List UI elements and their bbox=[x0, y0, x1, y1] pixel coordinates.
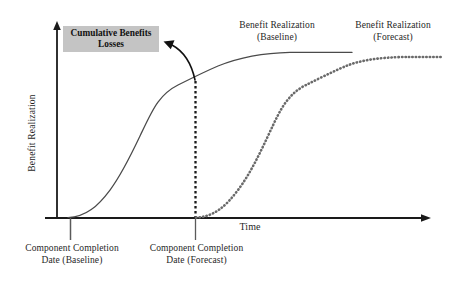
y-axis-label: Benefit Realization bbox=[27, 73, 37, 193]
series-label-baseline: Benefit Realization (Baseline) bbox=[216, 20, 338, 43]
marker-label-completion-forecast: Component Completion Date (Forecast) bbox=[126, 243, 267, 266]
callout-arrow bbox=[164, 40, 196, 80]
marker-label-completion-baseline: Component Completion Date (Baseline) bbox=[2, 243, 142, 266]
callout-label: Cumulative Benefits Losses bbox=[71, 28, 152, 50]
curve-baseline bbox=[68, 52, 352, 217]
callout-cumulative-benefits-losses: Cumulative Benefits Losses bbox=[63, 26, 159, 52]
series-label-forecast: Benefit Realization (Forecast) bbox=[331, 20, 455, 43]
curve-forecast bbox=[196, 57, 443, 218]
x-axis-label: Time bbox=[198, 221, 302, 233]
benefit-realization-chart: Cumulative Benefits Losses Benefit Reali… bbox=[0, 0, 459, 287]
y-axis bbox=[53, 21, 61, 218]
